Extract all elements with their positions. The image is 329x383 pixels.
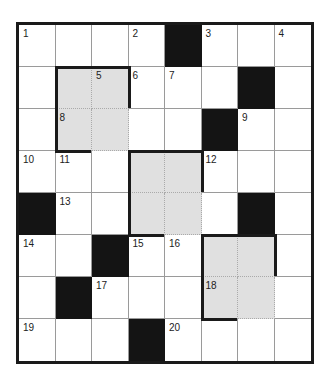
crossword-cell[interactable]: [275, 109, 312, 151]
black-square: [238, 193, 275, 235]
crossword-cell[interactable]: [92, 151, 129, 193]
crossword-cell[interactable]: [275, 277, 312, 319]
crossword-cell[interactable]: [19, 67, 56, 109]
block-outline: [201, 234, 276, 237]
crossword-cell[interactable]: [238, 25, 275, 67]
crossword-cell[interactable]: [129, 151, 166, 193]
clue-number: 5: [96, 71, 102, 81]
crossword-cell[interactable]: 20: [165, 319, 202, 361]
clue-number: 12: [206, 155, 217, 165]
block-outline: [55, 66, 130, 69]
crossword-cell[interactable]: [202, 319, 239, 361]
crossword-cell[interactable]: [275, 193, 312, 235]
crossword-grid: 1234567891011121314151617181920: [16, 22, 314, 364]
clue-number: 8: [60, 113, 66, 123]
clue-number: 4: [279, 29, 285, 39]
block-outline: [128, 66, 131, 108]
clue-number: 14: [23, 239, 34, 249]
block-outline: [128, 150, 131, 236]
crossword-cell[interactable]: [19, 109, 56, 151]
clue-number: 16: [169, 239, 180, 249]
clue-number: 17: [96, 281, 107, 291]
crossword-cell[interactable]: [129, 109, 166, 151]
black-square: [92, 235, 129, 277]
crossword-cell[interactable]: [92, 109, 129, 151]
crossword-cell[interactable]: 3: [202, 25, 239, 67]
clue-number: 19: [23, 323, 34, 333]
clue-number: 13: [60, 197, 71, 207]
crossword-cell[interactable]: 16: [165, 235, 202, 277]
clue-number: 1: [23, 29, 29, 39]
block-outline: [201, 234, 204, 320]
black-square: [165, 25, 202, 67]
clue-number: 3: [206, 29, 212, 39]
block-outline: [128, 234, 165, 237]
crossword-cell[interactable]: [238, 151, 275, 193]
crossword-cell[interactable]: 11: [56, 151, 93, 193]
crossword-cell[interactable]: 7: [165, 67, 202, 109]
crossword-cell[interactable]: 10: [19, 151, 56, 193]
crossword-cell[interactable]: [238, 277, 275, 319]
crossword-cell[interactable]: [56, 25, 93, 67]
crossword-cell[interactable]: 19: [19, 319, 56, 361]
block-outline: [274, 234, 277, 276]
crossword-cell[interactable]: [129, 277, 166, 319]
clue-number: 20: [169, 323, 180, 333]
crossword-cell[interactable]: 13: [56, 193, 93, 235]
crossword-cell[interactable]: [92, 319, 129, 361]
crossword-cell[interactable]: 14: [19, 235, 56, 277]
crossword-cell[interactable]: 5: [92, 67, 129, 109]
clue-number: 9: [242, 113, 248, 123]
crossword-cell[interactable]: [238, 319, 275, 361]
crossword-cell[interactable]: 8: [56, 109, 93, 151]
crossword-cell[interactable]: 1: [19, 25, 56, 67]
crossword-cell[interactable]: [275, 67, 312, 109]
crossword-cell[interactable]: 4: [275, 25, 312, 67]
block-outline: [201, 318, 238, 321]
crossword-cell[interactable]: [238, 235, 275, 277]
crossword-cell[interactable]: [129, 193, 166, 235]
crossword-cell[interactable]: [275, 319, 312, 361]
crossword-cell[interactable]: [56, 319, 93, 361]
crossword-cell[interactable]: 6: [129, 67, 166, 109]
clue-number: 10: [23, 155, 34, 165]
crossword-cell[interactable]: 2: [129, 25, 166, 67]
crossword-cell[interactable]: [56, 67, 93, 109]
crossword-cell[interactable]: [19, 277, 56, 319]
block-outline: [201, 150, 204, 192]
crossword-cell[interactable]: [92, 25, 129, 67]
crossword-cell[interactable]: [202, 193, 239, 235]
crossword-cell[interactable]: 9: [238, 109, 275, 151]
block-outline: [55, 150, 92, 153]
crossword-cell[interactable]: [165, 151, 202, 193]
crossword-cell[interactable]: 17: [92, 277, 129, 319]
block-outline: [128, 150, 203, 153]
black-square: [56, 277, 93, 319]
crossword-cell[interactable]: [202, 235, 239, 277]
crossword-cell[interactable]: 12: [202, 151, 239, 193]
black-square: [19, 193, 56, 235]
crossword-cell[interactable]: [165, 277, 202, 319]
crossword-cell[interactable]: 15: [129, 235, 166, 277]
clue-number: 15: [133, 239, 144, 249]
crossword-cell[interactable]: [92, 193, 129, 235]
block-outline: [55, 66, 58, 152]
clue-number: 18: [206, 281, 217, 291]
clue-number: 7: [169, 71, 175, 81]
black-square: [129, 319, 166, 361]
clue-number: 2: [133, 29, 139, 39]
crossword-cell[interactable]: [165, 193, 202, 235]
crossword-cell[interactable]: [275, 151, 312, 193]
clue-number: 11: [60, 155, 70, 165]
crossword-cell[interactable]: [56, 235, 93, 277]
black-square: [202, 109, 239, 151]
crossword-cell[interactable]: 18: [202, 277, 239, 319]
crossword-cell[interactable]: [202, 67, 239, 109]
crossword-cell[interactable]: [165, 109, 202, 151]
clue-number: 6: [133, 71, 139, 81]
crossword-cell[interactable]: [275, 235, 312, 277]
black-square: [238, 67, 275, 109]
